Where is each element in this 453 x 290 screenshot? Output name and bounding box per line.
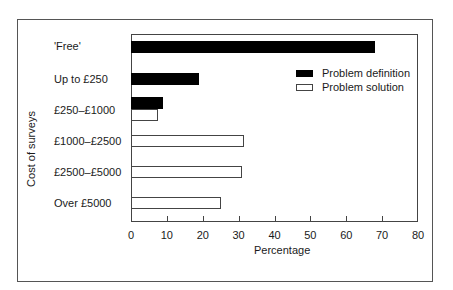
bar-problem-definition [131,41,375,53]
x-tick-label: 20 [188,229,218,241]
x-tick-label: 40 [260,229,290,241]
legend: Problem definition Problem solution [296,66,410,94]
bar-problem-definition [131,97,163,109]
x-tick-mark [167,216,168,222]
x-tick-mark [310,216,311,222]
bar-problem-solution [131,135,244,147]
x-tick-label: 0 [116,229,146,241]
x-tick-mark [382,216,383,222]
x-tick-mark [346,216,347,222]
category-label: Up to £250 [54,73,108,85]
x-tick-label: 30 [224,229,254,241]
legend-item-solution: Problem solution [296,80,410,94]
category-label: £1000–£2500 [54,135,121,147]
bar-problem-solution [131,197,221,209]
bar-problem-solution [131,109,158,121]
legend-swatch-definition [296,70,313,77]
category-label: £250–£1000 [54,104,115,116]
bar-problem-definition [131,73,199,85]
x-tick-label: 60 [331,229,361,241]
category-label: Over £5000 [54,197,111,209]
category-label: £2500–£5000 [54,166,121,178]
y-axis-label: Cost of surveys [25,111,37,187]
legend-label: Problem solution [322,81,404,93]
x-tick-label: 70 [367,229,397,241]
plot-area [131,34,418,222]
legend-label: Problem definition [322,67,410,79]
x-tick-mark [203,216,204,222]
x-tick-mark [239,216,240,222]
legend-item-definition: Problem definition [296,66,410,80]
bar-problem-solution [131,166,242,178]
x-tick-mark [275,216,276,222]
legend-swatch-solution [296,84,313,91]
x-tick-label: 10 [152,229,182,241]
x-tick-label: 50 [295,229,325,241]
x-tick-label: 80 [403,229,433,241]
x-axis-label: Percentage [254,244,310,256]
category-label: 'Free' [54,40,81,52]
